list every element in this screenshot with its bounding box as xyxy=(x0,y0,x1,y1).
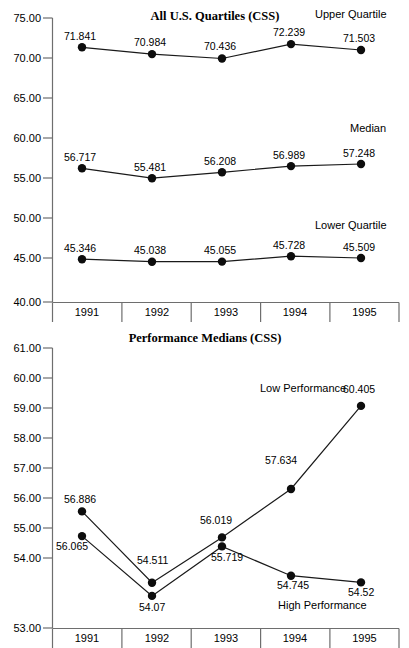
data-label-lower-1993: 45.055 xyxy=(204,245,236,256)
data-label-high-1991: 56.065 xyxy=(56,541,88,552)
x-tick-label-bottom-1994: 1994 xyxy=(260,633,330,644)
series-label-upper-quartile: Upper Quartile xyxy=(315,9,387,20)
series-points-high-performance xyxy=(78,532,365,600)
series-label-lower-quartile: Lower Quartile xyxy=(315,220,387,231)
x-tick-label-top-1992: 1992 xyxy=(122,307,192,318)
x-tick-label-bottom-1992: 1992 xyxy=(122,633,192,644)
data-label-median-1991: 56.717 xyxy=(64,152,96,163)
x-tick-label-bottom-1991: 1991 xyxy=(52,633,122,644)
data-label-lower-1991: 45.346 xyxy=(64,243,96,254)
y-tick-marks-bottom xyxy=(43,348,53,628)
y-tick-label-bottom-59: 59.00 xyxy=(0,403,41,414)
data-label-high-1992: 54.07 xyxy=(139,602,165,613)
series-label-low-performance: Low Performance xyxy=(260,383,346,394)
data-label-high-1995: 54.52 xyxy=(348,587,374,598)
data-label-low-1991: 56.886 xyxy=(64,494,96,505)
data-label-high-1993: 55.719 xyxy=(211,552,243,563)
y-tick-label-bottom-55: 55.00 xyxy=(0,523,41,534)
data-label-upper-1995: 71.503 xyxy=(343,33,375,44)
data-label-low-1993: 56.019 xyxy=(200,515,232,526)
y-tick-marks-top xyxy=(43,18,53,302)
x-tick-label-top-1991: 1991 xyxy=(52,307,122,318)
data-label-high-1994: 54.745 xyxy=(277,580,309,591)
data-label-median-1995: 57.248 xyxy=(343,148,375,159)
y-tick-label-top-45: 45.00 xyxy=(0,253,41,264)
data-label-lower-1994: 45.728 xyxy=(273,240,305,251)
x-tick-label-bottom-1995: 1995 xyxy=(330,633,399,644)
x-tick-label-bottom-1993: 1993 xyxy=(191,633,261,644)
chart-all-us-quartiles: All U.S. Quartiles (CSS) xyxy=(0,0,409,324)
data-label-median-1994: 56.989 xyxy=(273,150,305,161)
data-label-upper-1994: 72.239 xyxy=(273,27,305,38)
x-tick-label-top-1993: 1993 xyxy=(191,307,261,318)
y-tick-label-bottom-60: 60.00 xyxy=(0,373,41,384)
data-label-upper-1991: 71.841 xyxy=(64,31,96,42)
data-label-low-1995: 60.405 xyxy=(343,384,375,395)
data-label-lower-1995: 45.509 xyxy=(343,242,375,253)
data-label-low-1994: 57.634 xyxy=(265,455,297,466)
y-tick-label-top-70: 70.00 xyxy=(0,53,41,64)
y-tick-label-bottom-57: 57.00 xyxy=(0,463,41,474)
y-tick-label-top-60: 60.00 xyxy=(0,133,41,144)
y-tick-label-bottom-53: 53.00 xyxy=(0,623,41,634)
y-tick-label-bottom-56: 56.00 xyxy=(0,493,41,504)
x-tick-label-top-1994: 1994 xyxy=(260,307,330,318)
series-label-median: Median xyxy=(350,123,386,134)
y-tick-label-top-65: 65.00 xyxy=(0,93,41,104)
data-label-lower-1992: 45.038 xyxy=(134,245,166,256)
data-label-upper-1992: 70.984 xyxy=(134,37,166,48)
y-tick-label-bottom-54: 54.00 xyxy=(0,553,41,564)
y-tick-label-top-40: 40.00 xyxy=(0,297,41,308)
y-tick-label-top-50: 50.00 xyxy=(0,213,41,224)
y-tick-label-top-55: 55.00 xyxy=(0,173,41,184)
series-label-high-performance: High Performance xyxy=(278,600,367,611)
data-label-upper-1993: 70.436 xyxy=(204,41,236,52)
data-label-low-1992: 54.511 xyxy=(137,555,168,566)
x-tick-label-top-1995: 1995 xyxy=(330,307,399,318)
y-tick-label-bottom-61: 61.00 xyxy=(0,343,41,354)
data-label-median-1992: 55.481 xyxy=(134,162,166,173)
data-label-median-1993: 56.208 xyxy=(204,156,236,167)
y-tick-label-top-75: 75.00 xyxy=(0,13,41,24)
y-tick-label-bottom-58: 58.00 xyxy=(0,433,41,444)
chart-performance-medians: Performance Medians (CSS) xyxy=(0,324,409,648)
